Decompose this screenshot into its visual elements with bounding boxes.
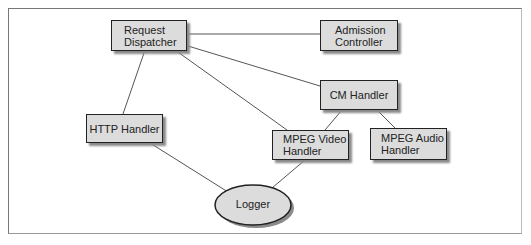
node-label-line2: Handler — [381, 144, 446, 156]
node-label-line2: Dispatcher — [124, 36, 186, 48]
node-label-line1: MPEG Audio — [381, 132, 446, 144]
node-label: CM Handler — [330, 89, 389, 101]
edge-dispatcher-mpeg-video — [175, 50, 287, 130]
node-cm-handler: CM Handler — [320, 80, 398, 110]
node-label-line2: Controller — [335, 36, 397, 48]
edge-cm-mpeg-audio — [377, 110, 395, 128]
edge-http-logger — [150, 143, 228, 192]
node-label-line2: Handler — [283, 145, 348, 157]
edge-mpeg-video-logger — [272, 160, 305, 188]
node-logger-label: Logger — [215, 198, 291, 210]
edge-cm-mpeg-video — [325, 110, 342, 130]
node-label: HTTP Handler — [89, 123, 159, 135]
node-admission-controller: Admission Controller — [320, 20, 398, 51]
node-label-line1: Admission — [335, 24, 397, 36]
node-label-line1: Request — [124, 24, 186, 36]
node-request-dispatcher: Request Dispatcher — [111, 20, 187, 51]
node-mpeg-audio-handler: MPEG Audio Handler — [370, 128, 447, 160]
node-mpeg-video-handler: MPEG Video Handler — [272, 130, 349, 160]
edge-dispatcher-cm — [188, 46, 320, 86]
node-http-handler: HTTP Handler — [86, 114, 163, 143]
node-label-line1: MPEG Video — [283, 133, 348, 145]
edge-dispatcher-http — [123, 50, 145, 114]
